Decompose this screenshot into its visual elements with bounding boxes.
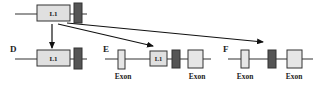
l1-insertion-diagram: L1 D L1 E L1 Exon Exon F Exon Exon [0,0,326,85]
panel-d-label: D [10,44,17,54]
panel-f-exon-1 [241,50,249,68]
panel-e-dark-box [172,50,180,68]
panel-f-exon-2-label: Exon [286,72,304,81]
panel-d-dark-box [74,48,82,69]
panel-f: F Exon Exon [223,44,313,81]
panel-e-label: E [103,44,109,54]
top-l1-label: L1 [49,10,58,18]
panel-e-exon-1-label: Exon [115,72,133,81]
panel-e-exon-2 [188,50,203,68]
insertion-arrows [52,23,263,48]
panel-e-l1-label: L1 [155,55,163,62]
panel-e: E L1 Exon Exon [103,44,211,81]
top-construct: L1 [15,3,87,23]
panel-e-exon-1 [118,50,125,69]
panel-e-exon-2-label: Exon [189,72,207,81]
panel-d: D L1 [10,44,87,69]
panel-f-exon-1-label: Exon [237,72,255,81]
top-dark-box [74,3,82,23]
panel-d-l1-label: L1 [49,55,58,63]
panel-f-exon-2 [287,50,302,68]
panel-f-dark-box [268,50,276,68]
panel-f-label: F [223,44,229,54]
